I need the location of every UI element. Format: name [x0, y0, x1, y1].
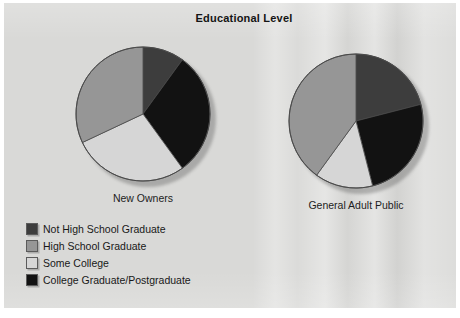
- pie-label-general-adult-public: General Adult Public: [248, 199, 456, 211]
- legend: Not High School Graduate High School Gra…: [26, 221, 191, 289]
- legend-swatch-some-college: [26, 257, 38, 269]
- pie-slices-new-owners: [75, 46, 211, 182]
- pie-chart-new-owners: New Owners: [75, 46, 211, 182]
- legend-swatch-not-hs-grad: [26, 223, 38, 235]
- legend-label-hs-grad: High School Graduate: [43, 240, 146, 252]
- legend-label-not-hs-grad: Not High School Graduate: [43, 223, 166, 235]
- educational-level-figure: Educational Level New Owners General Adu…: [0, 0, 460, 318]
- legend-label-some-college: Some College: [43, 257, 109, 269]
- scanned-plot-area: Educational Level New Owners General Adu…: [4, 3, 456, 308]
- legend-item-college-grad: College Graduate/Postgraduate: [26, 272, 191, 288]
- legend-swatch-college-grad: [26, 274, 38, 286]
- legend-item-not-hs-grad: Not High School Graduate: [26, 221, 191, 237]
- legend-swatch-hs-grad: [26, 240, 38, 252]
- pie-slices-general-adult-public: [288, 53, 424, 189]
- pie-label-new-owners: New Owners: [35, 192, 251, 204]
- legend-label-college-grad: College Graduate/Postgraduate: [43, 274, 191, 286]
- legend-item-some-college: Some College: [26, 255, 191, 271]
- pie-chart-general-adult-public: General Adult Public: [288, 53, 424, 189]
- page-title: Educational Level: [4, 12, 456, 24]
- legend-item-hs-grad: High School Graduate: [26, 238, 191, 254]
